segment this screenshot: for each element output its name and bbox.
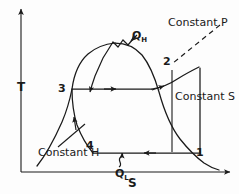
figure-canvas: T S 1 2 3 4 Constant P Constant S Consta… (0, 0, 239, 194)
state-point-2-label: 2 (163, 56, 171, 67)
state-point-3-label: 3 (58, 83, 66, 94)
heat-in-zigzag-arrow (90, 39, 133, 92)
temperature-axis-label: T (17, 81, 25, 93)
heat-in-label: QH (132, 30, 147, 44)
heat-out-wavy-arrow (119, 153, 123, 167)
entropy-axis-label: S (128, 177, 137, 189)
state-point-1-label: 1 (196, 147, 204, 158)
heat-out-subscript: L (124, 174, 128, 182)
heat-in-subscript: H (141, 36, 147, 44)
constant-pressure-label: Constant P (168, 17, 228, 28)
heat-out-symbol: Q (115, 167, 124, 180)
constant-entropy-label: Constant S (175, 91, 235, 102)
constant-enthalpy-label: Constant H (38, 147, 99, 158)
constant-p-leader-line (173, 25, 220, 63)
process-2-superheat-leg (152, 67, 199, 89)
heat-in-symbol: Q (132, 29, 141, 42)
heat-out-label: QL (115, 168, 129, 182)
